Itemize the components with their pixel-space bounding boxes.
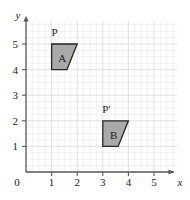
- axis-tick-marks: [22, 44, 154, 176]
- y-axis-tick-label: 1: [13, 140, 19, 152]
- x-axis-tick-label: 5: [151, 176, 157, 188]
- y-axis-tick-label: 4: [13, 64, 19, 76]
- y-axis-label: y: [15, 9, 21, 21]
- y-axis-tick-label: 5: [13, 38, 19, 50]
- grid-major-lines: [26, 21, 177, 172]
- y-axis-tick-label: 2: [13, 115, 19, 127]
- shape-name-label: B: [110, 129, 117, 141]
- x-axis-tick-label: 4: [126, 176, 132, 188]
- vertex-label: P': [102, 103, 110, 115]
- x-axis-tick-label: 1: [49, 176, 55, 188]
- origin-label: 0: [14, 176, 20, 188]
- shape-name-label: A: [58, 52, 66, 64]
- x-axis-label: x: [177, 176, 183, 188]
- y-axis-tick-label: 3: [13, 89, 19, 101]
- plot-svg: 1234512345 x y 0 APBP': [0, 0, 190, 200]
- x-axis-tick-label: 3: [100, 176, 106, 188]
- x-axis-tick-label: 2: [74, 176, 80, 188]
- y-axis-arrowhead-icon: [23, 16, 28, 22]
- coordinate-grid-figure: 1234512345 x y 0 APBP': [0, 0, 190, 200]
- vertex-label: P: [52, 26, 58, 38]
